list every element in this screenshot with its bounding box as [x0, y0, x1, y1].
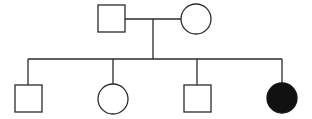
child-2-female-symbol	[98, 84, 128, 114]
mother-female-symbol	[181, 4, 211, 34]
father-male-symbol	[98, 5, 125, 32]
child-1-male-symbol	[15, 85, 42, 112]
pedigree-chart	[0, 0, 312, 119]
child-4-affected-female-symbol	[267, 83, 297, 113]
child-3-male-symbol	[184, 85, 211, 112]
